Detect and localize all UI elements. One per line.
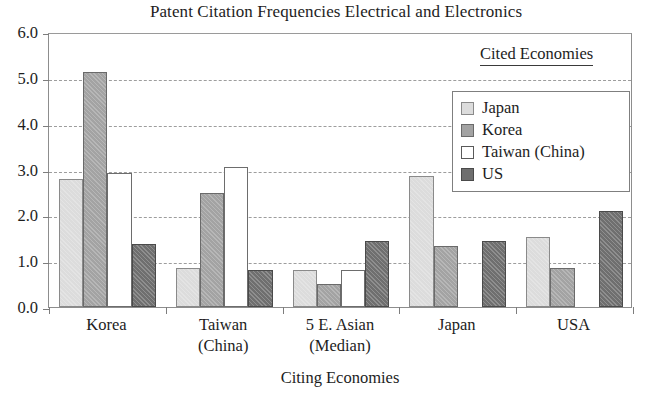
legend-item[interactable]: US [461,163,621,185]
y-tick-label: 1.0 [17,254,38,271]
y-tick-label: 5.0 [17,71,38,88]
bar [599,211,623,307]
bar [526,237,550,307]
x-tick-mark [516,307,517,314]
y-tick-label: 2.0 [17,208,38,225]
x-tick-mark [633,307,634,314]
legend-label: Japan [482,99,520,117]
gridline [49,80,631,81]
bar [248,270,272,307]
x-category-label-line: (China) [165,335,282,356]
bar [434,246,458,307]
x-category-label-line: Korea [48,314,165,335]
y-tick-mark [43,34,49,35]
x-category-label-line: Taiwan [165,314,282,335]
x-axis-title: Citing Economies [48,368,632,388]
y-tick-mark [43,217,49,218]
y-tick-mark [43,263,49,264]
y-tick-label: 3.0 [17,162,38,179]
x-category-label: USA [515,314,632,335]
x-tick-mark [399,307,400,314]
x-category-label-line: Japan [398,314,515,335]
bar [224,167,248,307]
legend-label: US [482,165,503,183]
legend-swatch-icon [461,168,474,181]
patent-citation-bar-chart: Patent Citation Frequencies Electrical a… [0,0,647,401]
x-axis-category-labels: KoreaTaiwan(China)5 E. Asian(Median)Japa… [48,314,632,364]
bar [107,173,131,307]
legend-item[interactable]: Japan [461,97,621,119]
x-category-label-line: USA [515,314,632,335]
x-category-label-line: (Median) [282,335,399,356]
bar [341,270,365,307]
bar [550,268,574,307]
legend-label: Korea [482,121,522,139]
bar [293,270,317,307]
x-category-label: 5 E. Asian(Median) [282,314,399,356]
y-tick-mark [43,126,49,127]
bar [132,244,156,307]
legend-swatch-icon [461,102,474,115]
y-tick-mark [43,80,49,81]
bar [482,241,506,307]
bar [200,193,224,307]
legend-label: Taiwan (China) [482,143,585,161]
bar [83,72,107,307]
x-tick-mark [49,307,50,314]
bar [176,268,200,307]
chart-title: Patent Citation Frequencies Electrical a… [40,1,632,22]
legend-swatch-icon [461,124,474,137]
legend[interactable]: JapanKoreaTaiwan (China)US [452,91,630,192]
legend-title: Cited Economies [480,44,593,66]
gridline [49,217,631,218]
y-tick-label: 4.0 [17,116,38,133]
x-tick-mark [166,307,167,314]
legend-item[interactable]: Korea [461,119,621,141]
x-tick-mark [283,307,284,314]
legend-item[interactable]: Taiwan (China) [461,141,621,163]
x-category-label: Taiwan(China) [165,314,282,356]
bar [59,179,83,307]
legend-swatch-icon [461,146,474,159]
y-tick-label: 6.0 [17,25,38,42]
y-axis: 0.01.02.03.04.05.06.0 [0,0,48,401]
x-category-label: Japan [398,314,515,335]
y-tick-label: 0.0 [17,300,38,317]
x-category-label-line: 5 E. Asian [282,314,399,335]
bar [317,284,341,307]
bar [365,241,389,307]
y-tick-mark [43,172,49,173]
bar [409,176,433,307]
x-category-label: Korea [48,314,165,335]
